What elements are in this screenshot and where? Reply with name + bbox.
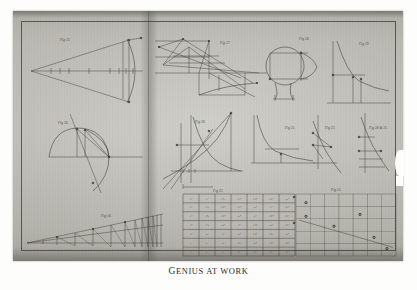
figure-fig-23: Fig 23. bbox=[312, 115, 341, 173]
table-cell: x³y³ bbox=[284, 241, 289, 245]
figure-label: Fig 21. bbox=[284, 126, 296, 130]
table-cell: x²y³ bbox=[236, 205, 241, 209]
table-cell: x²y² bbox=[252, 232, 257, 236]
table-cell: x bbox=[189, 241, 192, 245]
table-cell: x bbox=[205, 250, 208, 254]
figure-fig-22-table: Fig 22. x⁶y⁶x⁵yx⁴y²x³y³x²y⁴xy⁵x⁵x⁴yx³y²x… bbox=[183, 184, 295, 256]
table-cell: y⁴ bbox=[253, 214, 256, 218]
figure-label: Fig 14. bbox=[100, 214, 112, 218]
table-cell: y³ bbox=[237, 223, 240, 227]
table-cell: y⁴ bbox=[269, 250, 272, 254]
table-cell: y² bbox=[237, 250, 240, 254]
table-cell: x³y bbox=[204, 214, 209, 218]
table-cell: x²y² bbox=[220, 214, 225, 218]
figure-fig-17: Fig 17. bbox=[155, 38, 267, 97]
table-cell: x⁵ bbox=[189, 205, 192, 209]
paper-tear-notch bbox=[395, 150, 404, 176]
table-cell: x³y bbox=[268, 232, 273, 236]
table-cell: y bbox=[221, 250, 224, 254]
plot-point bbox=[305, 215, 307, 217]
table-cell: xy bbox=[205, 232, 209, 236]
table-cell: xy³ bbox=[236, 214, 241, 218]
table-cell: x²y bbox=[204, 223, 209, 227]
table-cell: xy² bbox=[220, 223, 225, 227]
paper-tear-notch-2 bbox=[396, 176, 403, 186]
figure-fig-16: Fig 16. bbox=[49, 114, 143, 193]
figure-label: Fig 17. bbox=[219, 41, 231, 45]
figure-label: Fig 18. bbox=[298, 37, 310, 41]
caption-initial: G bbox=[168, 266, 175, 276]
table-cell: x⁴y² bbox=[236, 197, 242, 201]
table-cell: xy⁴ bbox=[252, 205, 257, 209]
table-cell: x⁴ bbox=[189, 214, 192, 218]
plot-point bbox=[333, 225, 335, 227]
plot-trend-line bbox=[299, 220, 393, 247]
table-cell: y⁶ bbox=[205, 197, 208, 201]
table-cell: x²y³ bbox=[252, 223, 257, 227]
table-cell: x²y⁴ bbox=[284, 214, 289, 218]
table-cell: 1 bbox=[190, 250, 192, 254]
table-cell: xy³ bbox=[236, 232, 241, 236]
table-cell: y bbox=[205, 241, 208, 245]
figure-label: Fig 20. bbox=[194, 120, 206, 124]
table-cell: xy bbox=[221, 241, 225, 245]
figure-fig-15-grid: Fig 15. bbox=[293, 188, 396, 256]
table-cell: x³y³ bbox=[268, 214, 273, 218]
table-label: Fig 22. bbox=[212, 189, 224, 193]
figure-label: Fig 23. bbox=[324, 126, 336, 130]
table-cell: x³y³ bbox=[252, 197, 257, 201]
table-cell: y⁵ bbox=[285, 250, 288, 254]
table-cell: y² bbox=[221, 232, 224, 236]
plot-point bbox=[305, 202, 307, 204]
plot-point bbox=[373, 236, 375, 238]
table-cell: x⁶ bbox=[189, 197, 192, 201]
table-cell: xy⁵ bbox=[284, 197, 289, 201]
figure-fig-20: Fig 20. bbox=[163, 112, 243, 189]
table-cell: xy⁵ bbox=[284, 232, 289, 236]
table-cell: x²y³ bbox=[268, 241, 273, 245]
caption-rest: ENIUS AT WORK bbox=[176, 266, 249, 276]
plate-photograph: Fig 13. Fig 17. bbox=[0, 0, 417, 290]
figure-fig-19: Fig 19. bbox=[327, 41, 391, 103]
figure-label: Fig 24 & 25. bbox=[368, 126, 388, 130]
table-cell: y⁵ bbox=[269, 205, 272, 209]
table-cell: x⁴y² bbox=[284, 205, 290, 209]
table-cell: x³ bbox=[189, 223, 192, 227]
table-cell: x² bbox=[189, 232, 192, 236]
plot-point bbox=[386, 247, 388, 249]
table-cell: x³y² bbox=[220, 205, 225, 209]
figure-fig-24-25: Fig 24 & 25. bbox=[358, 113, 389, 173]
figure-fig-21: Fig 21. bbox=[251, 115, 315, 163]
table-cell: x³y² bbox=[284, 223, 289, 227]
figure-fig-13: Fig 13. bbox=[31, 37, 143, 103]
table-cell: x⁴y bbox=[204, 205, 209, 209]
figure-label: Fig 19. bbox=[358, 42, 370, 46]
figure-label: Fig 16. bbox=[57, 121, 69, 125]
table-cell: y³ bbox=[253, 250, 256, 254]
plot-gridlines bbox=[296, 194, 396, 256]
plot-point bbox=[359, 213, 361, 215]
table-cell: x²y bbox=[236, 241, 241, 245]
grid-label: Fig 15. bbox=[330, 188, 342, 192]
table-cell: x²y⁴ bbox=[268, 197, 273, 201]
table-cell: x⁵y bbox=[220, 197, 225, 201]
figure-label: Fig 13. bbox=[59, 38, 71, 42]
figure-fig-18: Fig 18. bbox=[266, 37, 317, 101]
figure-fig-14: Fig 14. bbox=[27, 214, 163, 247]
plate-caption: GENIUS AT WORK bbox=[0, 266, 417, 276]
table-cell: xy⁴ bbox=[268, 223, 273, 227]
table-cells: x⁶y⁶x⁵yx⁴y²x³y³x²y⁴xy⁵x⁵x⁴yx³y²x²y³xy⁴y⁵… bbox=[189, 197, 289, 254]
table-cell: xy² bbox=[252, 241, 257, 245]
figures-layer: Fig 13. Fig 17. bbox=[13, 11, 403, 261]
